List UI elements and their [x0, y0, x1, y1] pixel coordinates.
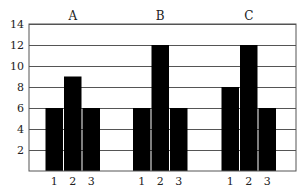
y-tick-label: 8: [17, 81, 24, 94]
group-title: A: [67, 9, 77, 23]
x-tick-label: 2: [245, 175, 252, 188]
bar: [133, 108, 151, 171]
y-tick-label: 4: [17, 123, 24, 136]
bar: [152, 45, 170, 171]
bar: [64, 77, 82, 172]
bar: [240, 45, 258, 171]
bar: [222, 87, 240, 171]
x-tick-label: 3: [175, 175, 182, 188]
y-tick-label: 2: [17, 144, 24, 157]
y-tick-label: 12: [10, 39, 24, 52]
x-tick-label: 3: [264, 175, 271, 188]
x-tick-label: 1: [138, 175, 145, 188]
bar: [170, 108, 188, 171]
x-axis-ticks: 123123123: [51, 175, 271, 188]
x-tick-label: 2: [69, 175, 76, 188]
y-tick-label: 14: [10, 18, 24, 31]
bar: [46, 108, 64, 171]
y-axis-ticks: 2468101214: [10, 18, 24, 157]
group-title: B: [156, 9, 165, 23]
x-tick-label: 1: [51, 175, 58, 188]
group-titles: ABC: [67, 9, 253, 23]
group-title: C: [244, 9, 253, 23]
x-tick-label: 3: [88, 175, 95, 188]
x-tick-label: 1: [227, 175, 234, 188]
x-tick-label: 2: [157, 175, 164, 188]
y-tick-label: 10: [10, 60, 24, 73]
y-tick-label: 6: [17, 102, 24, 115]
bars: [46, 45, 277, 171]
bar: [259, 108, 277, 171]
grouped-bar-chart: 2468101214 123123123 ABC: [0, 0, 306, 194]
bar: [83, 108, 101, 171]
